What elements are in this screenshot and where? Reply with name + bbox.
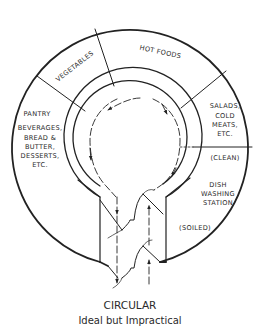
label-pantry-group: PANTRY BEVERAGES, BREAD & BUTTER, DESSER…	[18, 110, 63, 169]
label-soiled: (SOILED)	[179, 224, 211, 232]
label-pantry-title: PANTRY	[23, 110, 51, 118]
label-dish-line: DISH	[209, 181, 226, 189]
stem-left-wall	[78, 180, 100, 262]
swing-door-lower-left-arc	[113, 278, 122, 288]
stem-left-bottom	[100, 262, 108, 266]
counter-ring-outer-edge	[64, 67, 202, 197]
stem-right-wall	[166, 178, 190, 262]
label-pantry-line: BUTTER,	[25, 143, 55, 151]
caption-title: CIRCULAR	[104, 299, 157, 311]
swing-door-lower-right	[143, 246, 160, 262]
circular-kitchen-layout-diagram: HOT FOODS VEGETABLES PANTRY BEVERAGES, B…	[0, 0, 259, 335]
label-dish-line: WASHING	[201, 190, 235, 198]
label-vegetables: VEGETABLES	[54, 49, 95, 83]
swing-door-upper-right-arc	[143, 190, 154, 195]
label-dish-washing-group: DISH WASHING STATION	[201, 181, 235, 207]
label-dish-line: STATION	[203, 199, 233, 207]
label-salads-line: COLD	[215, 112, 235, 120]
swing-door-upper-right	[143, 194, 163, 214]
label-salads-group: SALADS, COLD MEATS, ETC.	[210, 102, 241, 138]
swing-door-upper-connector	[122, 194, 143, 230]
label-salads-line: SALADS,	[210, 102, 241, 110]
swing-door-lower-left	[108, 266, 118, 278]
swing-door-lower-connector	[122, 246, 143, 278]
label-pantry-line: BEVERAGES,	[18, 124, 63, 132]
label-pantry-line: BREAD &	[24, 134, 56, 142]
swing-door-upper-left	[100, 200, 122, 230]
label-pantry-line: DESSERTS,	[21, 152, 60, 160]
label-clean: (CLEAN)	[210, 154, 239, 162]
circulation-arrow-top-right	[162, 104, 167, 114]
caption-subtitle: Ideal but Impractical	[78, 315, 181, 326]
swing-door-lower-right-arc	[143, 240, 152, 246]
label-salads-line: ETC.	[217, 130, 233, 138]
label-salads-line: MEATS,	[212, 121, 238, 129]
label-hot-foods: HOT FOODS	[139, 44, 182, 61]
label-pantry-line: ETC.	[32, 161, 48, 169]
swing-door-upper-left-arc	[108, 230, 122, 238]
circulation-arrow-top-left	[108, 98, 140, 110]
